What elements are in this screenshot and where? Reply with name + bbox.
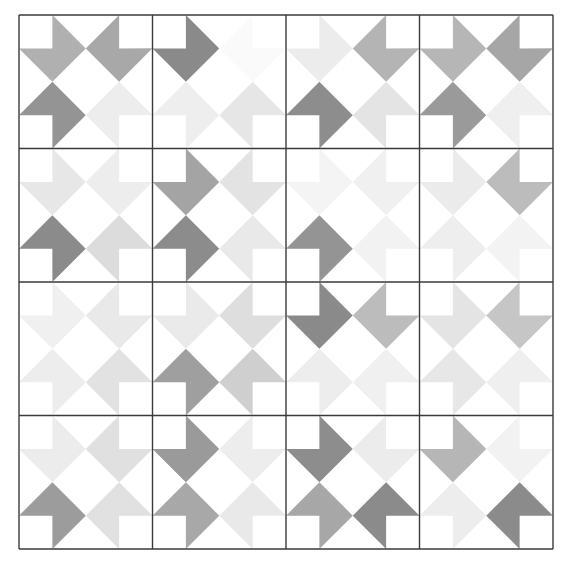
quilt-pattern-svg	[0, 0, 568, 564]
quilt-artwork-canvas	[0, 0, 568, 564]
